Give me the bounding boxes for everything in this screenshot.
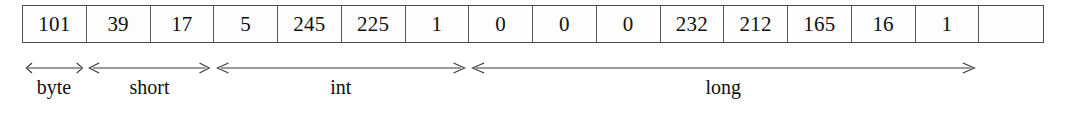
type-span-byte: byte [25,58,84,114]
byte-cell-value: 0 [559,14,570,35]
byte-cell: 245 [278,6,342,42]
type-span-long: long [471,58,976,114]
byte-cell: 1 [406,6,470,42]
byte-cell-value: 0 [495,14,506,35]
byte-cell: 101 [23,6,87,42]
byte-cell: 0 [533,6,597,42]
byte-cell: 1 [916,6,980,42]
byte-cell-value: 212 [740,14,772,35]
byte-cell-value: 232 [676,14,708,35]
byte-cell-value: 1 [942,14,953,35]
byte-cell: 212 [724,6,788,42]
double-headed-arrow-icon [25,58,84,78]
byte-cell-value: 0 [623,14,634,35]
byte-cell: 225 [342,6,406,42]
byte-cell-value: 101 [38,14,70,35]
type-span-int: int [216,58,466,114]
byte-cell: 232 [661,6,725,42]
byte-cell-row: 101 39 17 5 245 225 1 0 0 0 232 212 165 … [22,5,1044,43]
type-span-label-int: int [216,76,466,99]
type-span-short: short [88,58,211,114]
byte-cell-value: 245 [293,14,325,35]
type-span-label-long: long [471,76,976,99]
byte-cell: 165 [788,6,852,42]
byte-cell-value: 225 [357,14,389,35]
byte-cell: 5 [214,6,278,42]
byte-cell: 16 [852,6,916,42]
type-span-label-short: short [88,76,211,99]
byte-cell: 17 [151,6,215,42]
byte-cell-value: 165 [803,14,835,35]
byte-cell-value: 39 [107,14,128,35]
byte-cell: 39 [87,6,151,42]
byte-width-diagram: 101 39 17 5 245 225 1 0 0 0 232 212 165 … [0,0,1067,114]
byte-cell: 0 [597,6,661,42]
byte-cell: 0 [469,6,533,42]
byte-cell-value: 5 [240,14,251,35]
double-headed-arrow-icon [471,58,976,78]
byte-cell-value: 1 [432,14,443,35]
double-headed-arrow-icon [216,58,466,78]
byte-cell [979,6,1043,42]
byte-cell-value: 16 [872,14,893,35]
type-span-label-byte: byte [25,76,84,99]
byte-cell-value: 17 [171,14,192,35]
double-headed-arrow-icon [88,58,211,78]
